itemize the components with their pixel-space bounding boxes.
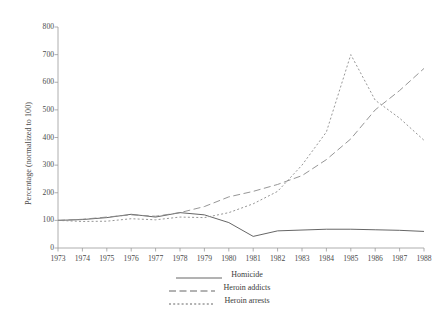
series-lines [58,55,424,237]
legend-swatch [169,295,215,305]
chart-legend: HomicideHeroin addictsHeroin arrests [0,268,439,306]
series-line [58,68,424,220]
legend-swatch [169,282,215,292]
x-axis-ticks [58,248,424,252]
legend-item: Heroin addicts [169,281,271,293]
plot-area [0,0,439,314]
y-axis-ticks [55,27,59,248]
legend-item: Homicide [176,268,263,280]
legend-label: Heroin addicts [224,283,271,292]
legend-label: Heroin arrests [224,296,269,305]
axis-lines [58,27,424,248]
legend-item: Heroin arrests [169,294,269,306]
legend-swatch [176,269,222,279]
series-line [58,55,424,222]
chart-container: Percentage (normalized to 100) 010020030… [0,0,439,314]
legend-label: Homicide [231,270,263,279]
